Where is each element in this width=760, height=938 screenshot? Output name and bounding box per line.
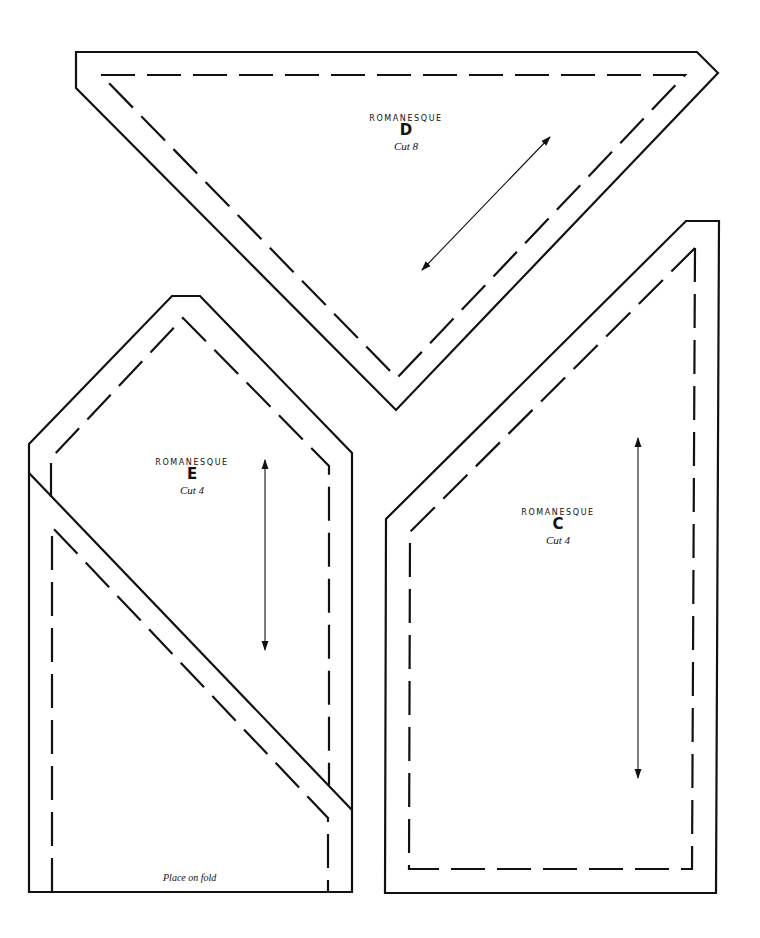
piece-d-letter: D — [336, 123, 476, 138]
piece-d-grain-arrow — [422, 137, 550, 270]
piece-c-letter: C — [488, 517, 628, 532]
piece-d-cut-line — [76, 52, 718, 410]
piece-c-template — [385, 221, 719, 893]
piece-d-template — [76, 52, 718, 410]
piece-c-cut-line — [385, 221, 719, 893]
piece-e-cut-instruction: Cut 4 — [122, 484, 262, 496]
piece-e-lower-seam-line — [52, 527, 328, 892]
piece-c-cut-instruction: Cut 4 — [488, 534, 628, 546]
place-on-fold-note: Place on fold — [163, 872, 216, 883]
piece-d-label: ROMANESQUE D Cut 8 — [336, 114, 476, 152]
piece-e-cut-line — [29, 296, 352, 892]
piece-c-seam-line — [409, 248, 695, 869]
piece-e-label: ROMANESQUE E Cut 4 — [122, 458, 262, 496]
piece-c-label: ROMANESQUE C Cut 4 — [488, 508, 628, 546]
piece-e-template — [29, 296, 352, 892]
piece-e-letter: E — [122, 467, 262, 482]
piece-e-inner-cut-diagonal — [29, 473, 352, 810]
piece-d-cut-instruction: Cut 8 — [336, 140, 476, 152]
piece-e-upper-seam-line — [51, 318, 329, 785]
